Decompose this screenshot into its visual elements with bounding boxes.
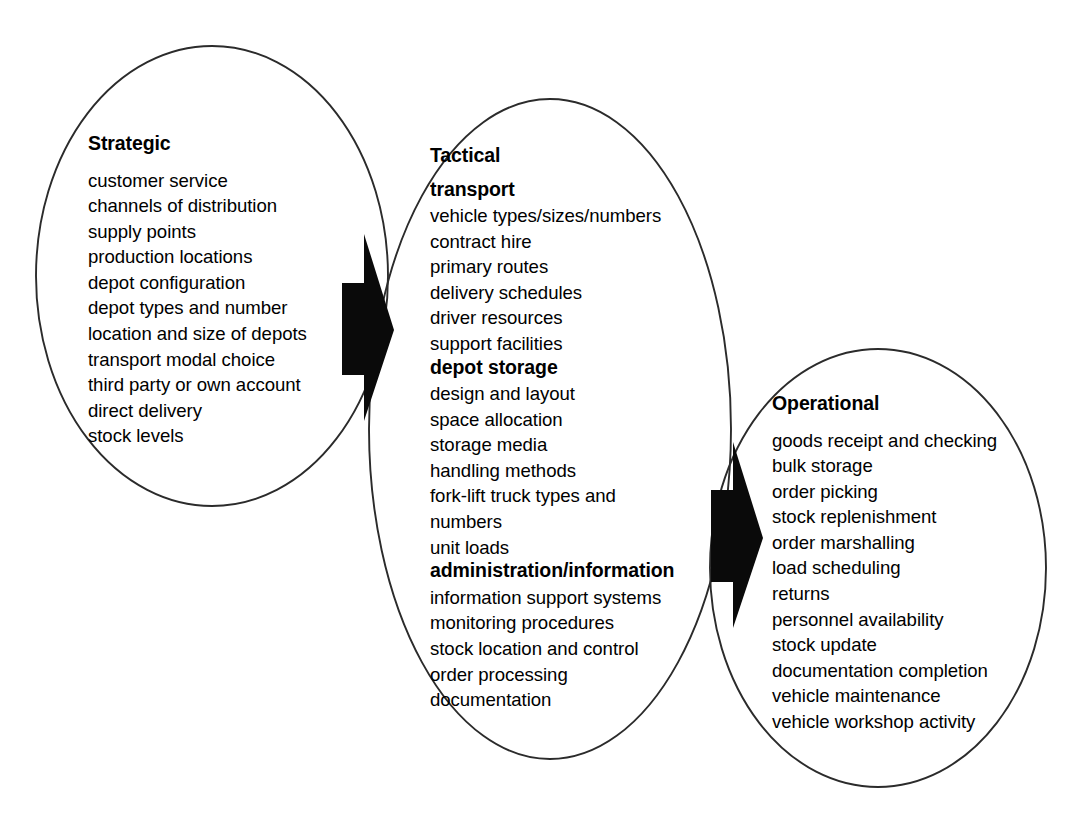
list-item: support facilities bbox=[430, 331, 674, 357]
item-list-strategic: customer service channels of distributio… bbox=[88, 168, 307, 450]
list-item: design and layout bbox=[430, 381, 674, 407]
list-item: stock location and control bbox=[430, 636, 674, 662]
list-item: goods receipt and checking bbox=[772, 428, 997, 454]
list-item: documentation completion bbox=[772, 658, 997, 684]
list-item: location and size of depots bbox=[88, 321, 307, 347]
list-item: vehicle maintenance bbox=[772, 683, 997, 709]
list-item: third party or own account bbox=[88, 372, 307, 398]
list-item: direct delivery bbox=[88, 398, 307, 424]
list-item: vehicle workshop activity bbox=[772, 709, 997, 735]
list-item: returns bbox=[772, 581, 997, 607]
list-item: monitoring procedures bbox=[430, 610, 674, 636]
list-item: driver resources bbox=[430, 305, 674, 331]
item-list-depot-storage: design and layout space allocation stora… bbox=[430, 381, 674, 560]
list-item: transport modal choice bbox=[88, 347, 307, 373]
list-item: documentation bbox=[430, 687, 674, 713]
group-title-operational: Operational bbox=[772, 394, 997, 414]
group-title-tactical: Tactical bbox=[430, 146, 674, 166]
list-item: depot types and number bbox=[88, 295, 307, 321]
arrow-tactical-to-operational bbox=[711, 442, 763, 628]
list-item: contract hire bbox=[430, 229, 674, 255]
list-item: channels of distribution bbox=[88, 193, 307, 219]
list-item: supply points bbox=[88, 219, 307, 245]
list-item: vehicle types/sizes/numbers bbox=[430, 203, 674, 229]
diagram-canvas: Strategic customer service channels of d… bbox=[0, 0, 1082, 823]
list-item: space allocation bbox=[430, 407, 674, 433]
list-item: fork-lift truck types and bbox=[430, 483, 674, 509]
list-item: production locations bbox=[88, 244, 307, 270]
arrow-strategic-to-tactical bbox=[342, 234, 394, 421]
list-item: stock replenishment bbox=[772, 504, 997, 530]
list-item: storage media bbox=[430, 432, 674, 458]
list-item: depot configuration bbox=[88, 270, 307, 296]
subsection-heading-administration-information: administration/information bbox=[430, 561, 674, 581]
list-item: primary routes bbox=[430, 254, 674, 280]
list-item: customer service bbox=[88, 168, 307, 194]
list-item: order marshalling bbox=[772, 530, 997, 556]
list-item: handling methods bbox=[430, 458, 674, 484]
item-list-administration-information: information support systems monitoring p… bbox=[430, 585, 674, 713]
subsection-heading-transport: transport bbox=[430, 180, 674, 200]
item-list-transport: vehicle types/sizes/numbers contract hir… bbox=[430, 203, 674, 357]
list-item: delivery schedules bbox=[430, 280, 674, 306]
list-item: unit loads bbox=[430, 535, 674, 561]
list-item: bulk storage bbox=[772, 453, 997, 479]
group-tactical: Tactical transport vehicle types/sizes/n… bbox=[430, 146, 674, 713]
item-list-operational: goods receipt and checking bulk storage … bbox=[772, 428, 997, 735]
list-item: stock levels bbox=[88, 423, 307, 449]
group-strategic: Strategic customer service channels of d… bbox=[88, 134, 307, 449]
list-item: order processing bbox=[430, 662, 674, 688]
list-item: information support systems bbox=[430, 585, 674, 611]
list-item: stock update bbox=[772, 632, 997, 658]
group-operational: Operational goods receipt and checking b… bbox=[772, 394, 997, 735]
subsection-heading-depot-storage: depot storage bbox=[430, 358, 674, 378]
list-item: order picking bbox=[772, 479, 997, 505]
list-item: numbers bbox=[430, 509, 674, 535]
list-item: load scheduling bbox=[772, 555, 997, 581]
list-item: personnel availability bbox=[772, 607, 997, 633]
group-title-strategic: Strategic bbox=[88, 134, 307, 154]
